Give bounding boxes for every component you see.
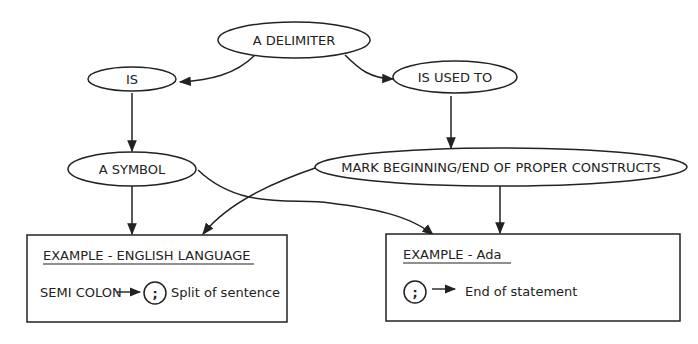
box-english-example: EXAMPLE - ENGLISH LANGUAGE SEMI COLON ; … <box>27 235 287 322</box>
node-label: IS <box>126 72 138 87</box>
semicolon-symbol: ; <box>412 285 417 300</box>
semicolon-label: SEMI COLON <box>40 285 122 300</box>
box-ada-example: EXAMPLE - Ada ; End of statement <box>386 234 680 321</box>
edge-delimiter-to-isusedto <box>345 55 393 79</box>
meaning-text: Split of sentence <box>171 285 280 300</box>
edge-mark-to-english <box>203 167 318 234</box>
edge-delimiter-to-is <box>180 55 255 82</box>
box-title: EXAMPLE - Ada <box>403 247 501 262</box>
concept-diagram: A DELIMITER IS IS USED TO A SYMBOL MARK … <box>0 0 698 344</box>
semicolon-symbol: ; <box>152 286 157 301</box>
node-a-delimiter: A DELIMITER <box>218 22 370 58</box>
node-label: A DELIMITER <box>253 33 336 48</box>
node-label: MARK BEGINNING/END OF PROPER CONSTRUCTS <box>341 160 661 175</box>
box-title: EXAMPLE - ENGLISH LANGUAGE <box>43 248 250 263</box>
node-a-symbol: A SYMBOL <box>68 152 196 186</box>
meaning-text: End of statement <box>465 284 577 299</box>
node-label: IS USED TO <box>418 70 493 85</box>
node-is-used-to: IS USED TO <box>393 61 517 93</box>
node-is: IS <box>88 67 176 91</box>
node-mark-constructs: MARK BEGINNING/END OF PROPER CONSTRUCTS <box>315 148 687 186</box>
node-label: A SYMBOL <box>99 162 166 177</box>
